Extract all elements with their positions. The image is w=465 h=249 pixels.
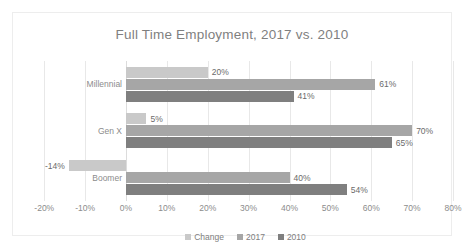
x-axis-tick-70: 70% <box>404 203 421 213</box>
x-axis-tick--10: -10% <box>75 203 95 213</box>
bar-value-label: 41% <box>298 91 315 101</box>
chart-title: Full Time Employment, 2017 vs. 2010 <box>13 27 451 42</box>
bar-2017-millennial[interactable] <box>126 79 375 90</box>
bar-group-gen-x: Gen X5%70%65% <box>126 108 453 155</box>
bar-2010-gen-x[interactable] <box>126 137 392 148</box>
bar-2010-boomer[interactable] <box>126 184 347 195</box>
bar-value-label: 5% <box>150 114 162 124</box>
bar-change-millennial[interactable] <box>126 67 208 78</box>
bar-row: 70% <box>126 125 412 136</box>
bar-row: 54% <box>126 184 347 195</box>
bar-value-label: 65% <box>396 138 413 148</box>
x-axis-tick-20: 20% <box>199 203 216 213</box>
x-axis-tick-50: 50% <box>322 203 339 213</box>
bar-2017-gen-x[interactable] <box>126 125 412 136</box>
x-axis-tick-40: 40% <box>281 203 298 213</box>
category-label-boomer: Boomer <box>92 173 122 183</box>
bar-row: 41% <box>126 91 294 102</box>
bar-row: 40% <box>126 172 290 183</box>
legend-item-2017[interactable]: 2017 <box>237 232 265 242</box>
legend-swatch-icon <box>185 234 191 240</box>
bar-value-label: 61% <box>379 79 396 89</box>
bar-group-boomer: Boomer-14%40%54% <box>126 154 453 201</box>
legend-label: Change <box>194 232 224 242</box>
plot-area: Millennial20%61%41%Gen X5%70%65%Boomer-1… <box>126 61 453 201</box>
x-axis-tick-0: 0% <box>120 203 132 213</box>
legend-label: 2010 <box>287 232 306 242</box>
bar-change-gen-x[interactable] <box>126 113 146 124</box>
legend-swatch-icon <box>278 234 284 240</box>
bar-value-label: -14% <box>45 161 65 171</box>
bar-2017-boomer[interactable] <box>126 172 290 183</box>
gridline-80 <box>453 61 454 201</box>
x-axis-tick-10: 10% <box>158 203 175 213</box>
bar-value-label: 40% <box>294 173 311 183</box>
legend-label: 2017 <box>246 232 265 242</box>
bar-value-label: 70% <box>416 126 433 136</box>
bar-change-boomer[interactable] <box>69 160 126 171</box>
bar-group-millennial: Millennial20%61%41% <box>126 61 453 108</box>
bar-row: 65% <box>126 137 392 148</box>
x-axis-tick-80: 80% <box>444 203 461 213</box>
bar-row: 61% <box>126 79 375 90</box>
chart-frame: Full Time Employment, 2017 vs. 2010 Mill… <box>12 12 452 236</box>
category-label-gen-x: Gen X <box>98 126 122 136</box>
chart-legend: Change20172010 <box>13 232 465 242</box>
legend-item-change[interactable]: Change <box>185 232 224 242</box>
category-label-millennial: Millennial <box>87 79 122 89</box>
bar-row: 20% <box>126 67 208 78</box>
x-axis-tick-60: 60% <box>363 203 380 213</box>
bar-2010-millennial[interactable] <box>126 91 294 102</box>
bar-value-label: 20% <box>212 67 229 77</box>
legend-item-2010[interactable]: 2010 <box>278 232 306 242</box>
bar-row: -14% <box>69 160 126 171</box>
gridline--20 <box>44 61 45 201</box>
x-axis-tick--20: -20% <box>34 203 54 213</box>
bar-value-label: 54% <box>351 185 368 195</box>
bar-row: 5% <box>126 113 146 124</box>
legend-swatch-icon <box>237 234 243 240</box>
x-axis: -20%-10%0%10%20%30%40%50%60%70%80% <box>126 203 453 217</box>
x-axis-tick-30: 30% <box>240 203 257 213</box>
